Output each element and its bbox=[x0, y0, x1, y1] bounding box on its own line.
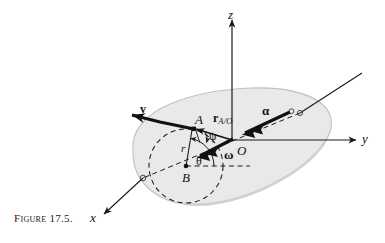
vector-label-omega: ω bbox=[224, 148, 234, 161]
figure-drawing bbox=[0, 0, 385, 243]
axis-label-y: y bbox=[362, 132, 368, 145]
point-label-b: B bbox=[182, 171, 190, 184]
vector-label-r-subscript: A/O bbox=[218, 116, 232, 126]
figure-panel: z y x O A B v rA/O α ω ψ θ r Figure 17.5… bbox=[0, 0, 385, 243]
axis-label-x: x bbox=[90, 211, 96, 224]
scalar-label-r: r bbox=[181, 143, 185, 154]
vector-label-alpha: α bbox=[262, 104, 269, 117]
figure-caption: Figure 17.5. bbox=[14, 212, 73, 224]
angle-label-psi: ψ bbox=[209, 130, 217, 142]
angle-label-theta: θ bbox=[196, 155, 202, 167]
point-label-o: O bbox=[237, 144, 246, 157]
axis-label-z: z bbox=[228, 8, 233, 21]
vector-label-v: v bbox=[140, 103, 146, 115]
vector-label-r-a-over-o: rA/O bbox=[213, 112, 233, 126]
point-label-a: A bbox=[195, 113, 203, 126]
